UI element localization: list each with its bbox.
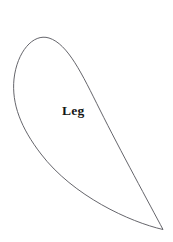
leg-outline-path [14,37,163,229]
shape-label-leg: Leg [62,104,84,118]
diagram-canvas: Leg [0,0,173,242]
leg-shape-svg [0,0,173,242]
